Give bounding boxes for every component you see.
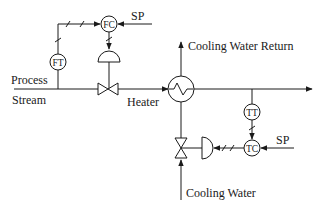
actuator-top xyxy=(98,51,120,62)
heater-label: Heater xyxy=(127,95,159,109)
tc-label: TC xyxy=(246,144,258,154)
sp-top-label: SP xyxy=(131,9,145,23)
control-valve-process xyxy=(98,83,118,95)
actuator-bottom xyxy=(202,137,213,159)
ft-label: FT xyxy=(52,58,63,68)
fc-label: FC xyxy=(103,20,115,30)
process-stream-label-1: Process xyxy=(11,73,48,87)
tt-label: TT xyxy=(246,108,258,118)
cooling-water-return-label: Cooling Water Return xyxy=(188,39,293,53)
process-stream-label-2: Stream xyxy=(12,93,47,107)
cooling-water-label: Cooling Water xyxy=(186,186,256,200)
pid-diagram: FT FC TT TC Process Stream Heater Coolin… xyxy=(0,0,322,209)
sp-bottom-label: SP xyxy=(276,133,290,147)
